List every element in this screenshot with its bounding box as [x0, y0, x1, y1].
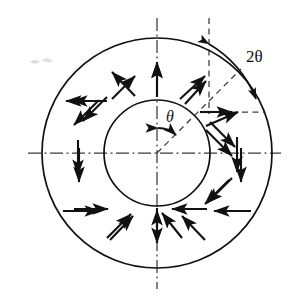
- arrow-14: [112, 72, 135, 96]
- label-2theta-text: 2θ: [246, 47, 263, 66]
- arrow-21: [210, 122, 235, 147]
- theta-arc-path: [158, 128, 176, 135]
- arrow-7: [162, 213, 182, 238]
- centerlines-group: [28, 18, 281, 289]
- scan-speck-artifact: [30, 58, 53, 63]
- label-theta-text: θ: [166, 108, 174, 125]
- arrow-26: [112, 76, 135, 99]
- arrow-17: [182, 216, 205, 240]
- figure-root: 2θ θ: [0, 0, 293, 298]
- label-2theta: 2θ: [246, 47, 263, 66]
- arrow-16: [110, 216, 133, 240]
- label-theta: θ: [166, 108, 174, 125]
- annulus-arrow-diagram: 2θ θ: [0, 0, 293, 298]
- theta-arc: [158, 128, 176, 135]
- arrow-22: [207, 178, 232, 203]
- arrow-8: [107, 214, 131, 238]
- arrow-24: [74, 100, 99, 125]
